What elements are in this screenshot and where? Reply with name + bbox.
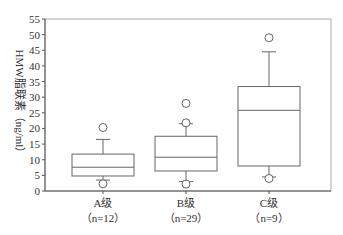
box-2 [155,99,217,188]
box-series [72,34,300,188]
x-category-n-label: （n=12） [81,212,126,224]
chart-canvas: 0510152025303540455055 A级（n=12）B级（n=29）C… [0,0,343,235]
y-tick-label: 45 [29,44,41,56]
y-tick-label: 15 [29,138,41,150]
outlier-marker [265,34,273,42]
x-category-n-label: （n=29） [164,212,209,224]
outlier-marker [182,99,190,107]
y-axis: 0510152025303540455055 [29,13,45,197]
x-category-label: B级 [177,197,195,209]
y-tick-label: 25 [29,107,41,119]
outlier-marker [182,119,190,127]
y-tick-label: 0 [35,185,41,197]
iqr-box [155,136,217,171]
x-category-label: A级 [94,197,113,209]
x-axis: A级（n=12）B级（n=29）C级（n=9） [81,191,289,224]
y-axis-label: HMW脂联素（ng/ml） [14,50,27,159]
outlier-marker [182,180,190,188]
box-3 [238,34,300,183]
y-tick-label: 30 [29,91,41,103]
y-tick-label: 50 [29,29,41,41]
iqr-box [238,87,300,166]
y-tick-label: 35 [29,76,41,88]
outlier-marker [99,180,107,188]
x-category-n-label: （n=9） [249,212,288,224]
y-tick-label: 5 [35,169,41,181]
iqr-box [72,154,134,176]
x-category-label: C级 [260,197,278,209]
outlier-marker [99,124,107,132]
box-plot-chart: 0510152025303540455055 A级（n=12）B级（n=29）C… [0,0,343,235]
y-tick-label: 10 [29,154,41,166]
outlier-marker [265,174,273,182]
box-1 [72,124,134,188]
y-tick-label: 20 [29,122,41,134]
y-tick-label: 55 [29,13,41,25]
y-tick-label: 40 [29,60,41,72]
